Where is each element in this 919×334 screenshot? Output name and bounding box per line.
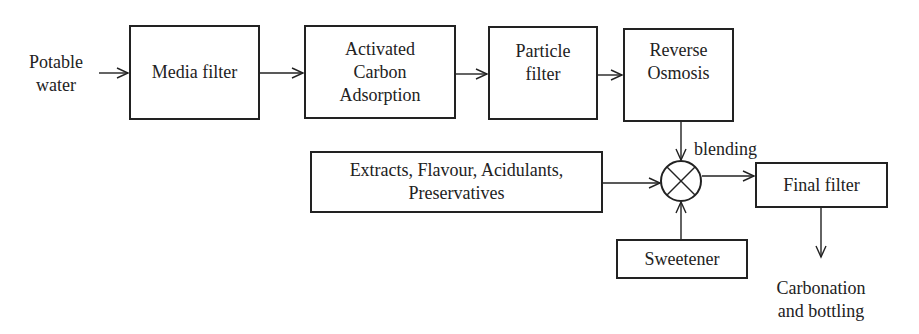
media-filter-box: Media filter (129, 25, 260, 120)
blending-label: blending (694, 138, 757, 161)
final-filter-label: Final filter (783, 174, 859, 197)
sweetener-label: Sweetener (645, 248, 720, 271)
reverse-osmosis-box: Reverse Osmosis (623, 28, 734, 122)
activated-carbon-box: Activated Carbon Adsorption (304, 25, 456, 119)
sweetener-box: Sweetener (616, 239, 748, 279)
particle-filter-label: Particle filter (516, 40, 571, 86)
additives-label: Extracts, Flavour, Acidulants, Preservat… (350, 159, 564, 205)
input-label: Potable water (14, 51, 98, 97)
media-filter-label: Media filter (152, 61, 237, 84)
activated-carbon-label: Activated Carbon Adsorption (340, 38, 421, 107)
particle-filter-box: Particle filter (488, 26, 598, 120)
reverse-osmosis-label: Reverse Osmosis (647, 39, 709, 85)
additives-box: Extracts, Flavour, Acidulants, Preservat… (310, 151, 603, 213)
final-filter-box: Final filter (755, 162, 888, 208)
output-label: Carbonation and bottling (771, 277, 871, 323)
